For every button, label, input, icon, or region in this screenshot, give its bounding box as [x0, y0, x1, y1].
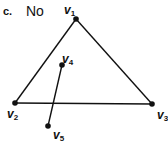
- edge-v1-v3: [76, 19, 152, 104]
- vertex-v3: [149, 101, 155, 107]
- vertex-label-v1: v1: [64, 4, 75, 18]
- graph-diagram: c. No v1 v2 v3 v4 v5: [0, 0, 168, 143]
- vertex-v5: [45, 123, 51, 129]
- edge-v2-v3: [15, 103, 152, 104]
- vertex-label-v4: v4: [62, 53, 73, 67]
- vertex-v2: [12, 100, 18, 106]
- graph-drawing: [0, 0, 168, 143]
- vertex-label-v3: v3: [157, 109, 168, 123]
- vertex-label-v2: v2: [7, 108, 18, 122]
- vertex-label-v5: v5: [53, 129, 64, 143]
- edge-v4-v5: [48, 65, 62, 126]
